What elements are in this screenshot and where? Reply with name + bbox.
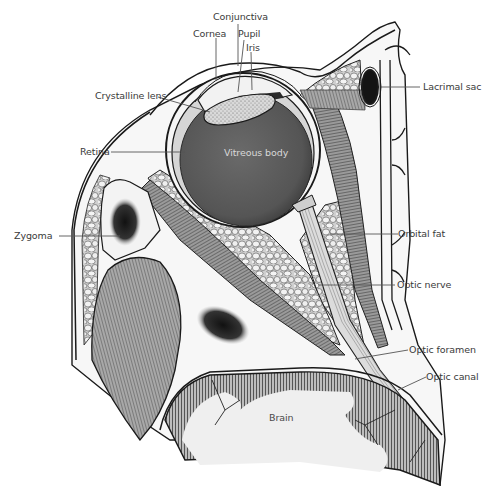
label-optic-nerve: Optic nerve (397, 279, 451, 290)
label-vitreous-body: Vitreous body (224, 147, 288, 158)
label-cornea: Cornea (193, 28, 226, 39)
label-retina: Retina (80, 146, 110, 157)
label-lacrimal-sac: Lacrimal sac (423, 81, 481, 92)
label-orbital-fat: Orbital fat (398, 228, 445, 239)
label-iris: Iris (246, 42, 260, 53)
orbit-eye-anatomy-illustration (0, 0, 490, 486)
zygoma-marrow (109, 198, 141, 246)
label-optic-foramen: Optic foramen (409, 344, 476, 355)
label-brain: Brain (269, 412, 293, 423)
label-optic-canal: Optic canal (426, 371, 479, 382)
label-zygoma: Zygoma (14, 230, 52, 241)
lacrimal-sac-structure (362, 70, 378, 104)
label-conjunctiva: Conjunctiva (213, 11, 268, 22)
label-pupil: Pupil (238, 28, 260, 39)
lacrimal-muscle-fibers (300, 90, 365, 110)
label-crystalline-lens: Crystalline lens (95, 90, 166, 101)
